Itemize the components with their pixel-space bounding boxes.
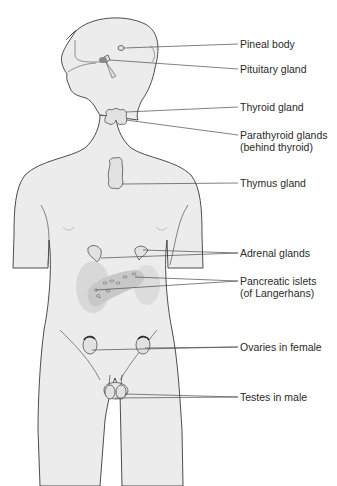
testis-right [116, 385, 126, 399]
pineal-body [118, 46, 124, 51]
label-adrenal-glands: Adrenal glands [240, 247, 310, 259]
label-pancreatic-line1: Pancreatic islets [240, 275, 316, 287]
label-parathyroid-line2: (behind thyroid) [240, 141, 328, 153]
label-ovaries: Ovaries in female [240, 341, 322, 353]
body-silhouette [13, 18, 203, 486]
thymus-gland [108, 157, 123, 188]
label-pineal-body: Pineal body [240, 38, 295, 50]
label-testes: Testes in male [240, 391, 307, 403]
label-pituitary-gland: Pituitary gland [240, 63, 307, 75]
label-pancreatic-line2: (of Langerhans) [240, 287, 316, 299]
label-parathyroid-line1: Parathyroid glands [240, 129, 328, 141]
label-parathyroid-glands: Parathyroid glands (behind thyroid) [240, 129, 328, 153]
testis-left [105, 385, 115, 399]
label-pancreatic-islets: Pancreatic islets (of Langerhans) [240, 275, 316, 299]
label-thymus-gland: Thymus gland [240, 177, 306, 189]
label-thyroid-gland: Thyroid gland [240, 101, 304, 113]
